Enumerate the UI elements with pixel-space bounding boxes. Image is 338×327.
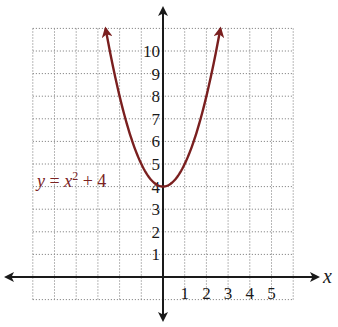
y-tick-label: 5 <box>152 155 161 174</box>
y-tick-label: 10 <box>143 42 160 61</box>
x-axis-label: x <box>322 265 332 287</box>
y-tick-label: 1 <box>152 245 161 264</box>
y-tick-label: 6 <box>152 132 161 151</box>
equation-equals: = <box>45 171 64 191</box>
equation-label: y = x2 + 4 <box>35 169 106 191</box>
x-tick-label: 5 <box>267 284 276 303</box>
equation-y: y <box>35 171 45 191</box>
y-tick-label: 3 <box>152 200 161 219</box>
y-tick-label: 9 <box>152 65 161 84</box>
equation-rest: + 4 <box>78 171 106 191</box>
x-tick-label: 3 <box>224 284 233 303</box>
parabola-right-branch <box>163 28 220 186</box>
y-tick-label: 8 <box>152 87 161 106</box>
x-tick-label: 2 <box>202 284 211 303</box>
x-tick-label: 4 <box>246 284 255 303</box>
equation-x: x <box>63 171 72 191</box>
parabola-chart: 1234512345678910 x y = x2 + 4 <box>0 0 338 327</box>
x-tick-label: 1 <box>180 284 189 303</box>
y-tick-label: 2 <box>152 223 161 242</box>
y-tick-label: 7 <box>152 110 161 129</box>
